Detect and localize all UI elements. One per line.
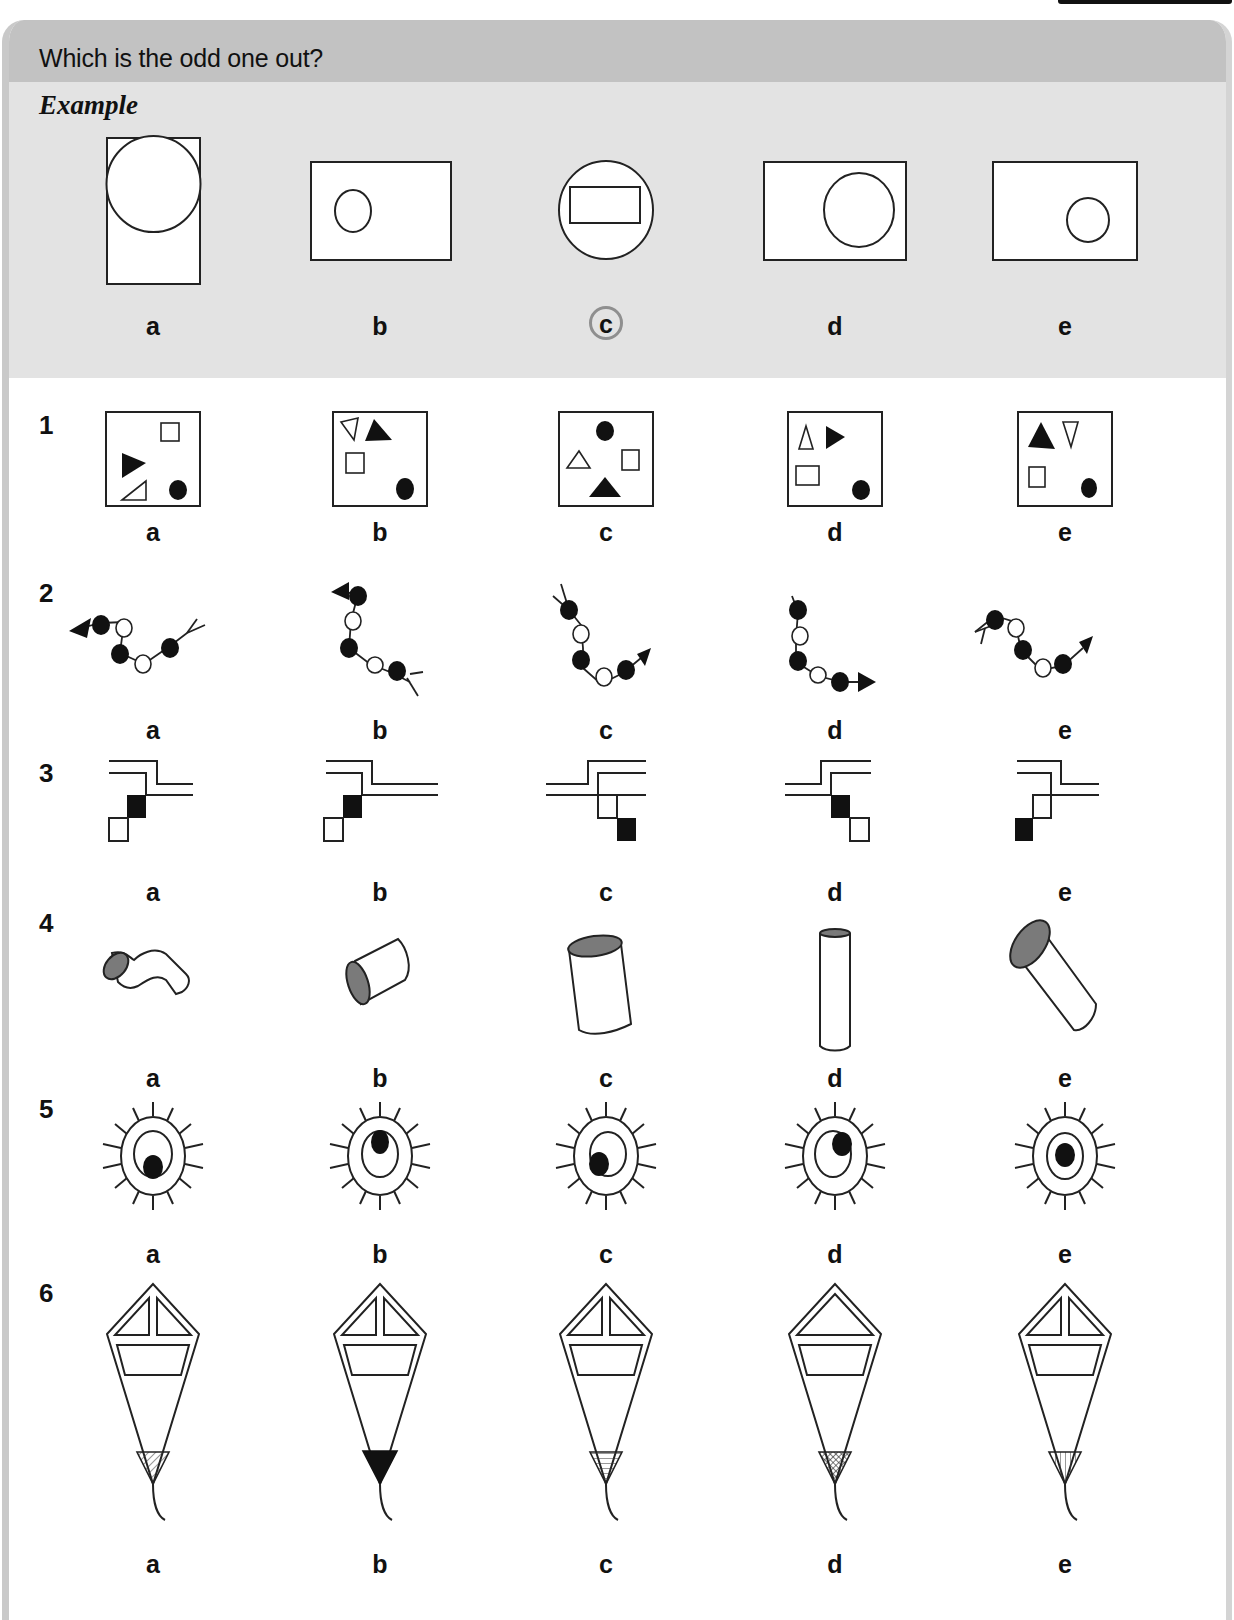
bead-chain-figure xyxy=(315,578,445,698)
top-edge-bar xyxy=(1058,0,1232,4)
option-letter: a xyxy=(53,1064,253,1093)
option-letter: b xyxy=(280,1064,480,1093)
q5-option-a[interactable]: a xyxy=(53,1094,253,1214)
option-letter: e xyxy=(965,312,1165,341)
option-letter: c xyxy=(506,518,706,547)
q3-option-d[interactable]: d xyxy=(735,758,935,858)
kite-figure xyxy=(330,1278,430,1528)
q2-option-d[interactable]: d xyxy=(735,578,935,698)
option-letter: c xyxy=(506,716,706,745)
option-letter: b xyxy=(280,716,480,745)
example-option-a[interactable]: a xyxy=(53,136,253,286)
spiked-eye-figure xyxy=(775,1094,895,1214)
q4-option-e[interactable]: e xyxy=(965,908,1165,1058)
q1-option-e[interactable]: e xyxy=(965,410,1165,508)
q6-option-c[interactable]: c xyxy=(506,1278,706,1528)
bead-chain-figure xyxy=(541,578,671,698)
q5-option-e[interactable]: e xyxy=(965,1094,1165,1214)
q5-option-b[interactable]: b xyxy=(280,1094,480,1214)
option-letter: e xyxy=(965,878,1165,907)
worksheet-panel: Which is the odd one out? Example a b c xyxy=(2,20,1232,1620)
option-letter: c xyxy=(506,878,706,907)
cylinder-icon xyxy=(315,908,445,1048)
bead-chain-figure xyxy=(67,578,227,688)
option-letter: a xyxy=(53,518,253,547)
question-number: 3 xyxy=(39,758,53,789)
example-option-b[interactable]: b xyxy=(280,136,480,286)
stepped-lines-squares-figure xyxy=(775,758,895,858)
option-letter: d xyxy=(735,1550,935,1579)
option-letter: e xyxy=(965,1064,1165,1093)
shapes-in-square-figure xyxy=(558,410,654,508)
q3-option-a[interactable]: a xyxy=(53,758,253,858)
option-letter: b xyxy=(280,1240,480,1269)
option-letter: e xyxy=(965,1240,1165,1269)
q6-option-e[interactable]: e xyxy=(965,1278,1165,1528)
example-option-c[interactable]: c xyxy=(506,136,706,286)
option-letter: b xyxy=(280,878,480,907)
q1-option-c[interactable]: c xyxy=(506,410,706,508)
q6-option-d[interactable]: d xyxy=(735,1278,935,1528)
shapes-in-square-figure xyxy=(332,410,428,508)
question-number: 4 xyxy=(39,908,53,939)
q3-option-e[interactable]: e xyxy=(965,758,1165,858)
kite-figure xyxy=(556,1278,656,1528)
stepped-lines-squares-figure xyxy=(310,758,450,858)
option-letter: d xyxy=(735,518,935,547)
q2-option-c[interactable]: c xyxy=(506,578,706,698)
bead-chain-figure xyxy=(770,578,900,698)
rectangle-circle-figure xyxy=(310,136,450,286)
option-letter: d xyxy=(735,716,935,745)
shapes-in-square-figure xyxy=(1017,410,1113,508)
page-title: Which is the odd one out? xyxy=(39,44,323,73)
kite-figure xyxy=(785,1278,885,1528)
option-letter: e xyxy=(965,716,1165,745)
stepped-lines-squares-figure xyxy=(546,758,666,858)
q1-option-a[interactable]: a xyxy=(53,410,253,508)
shapes-in-square-figure xyxy=(787,410,883,508)
option-letter: d xyxy=(735,1240,935,1269)
q4-option-b[interactable]: b xyxy=(280,908,480,1048)
bead-chain-figure xyxy=(955,578,1115,698)
option-letter: d xyxy=(735,312,935,341)
q6-option-a[interactable]: a xyxy=(53,1278,253,1528)
example-option-d[interactable]: d xyxy=(735,136,935,286)
q5-option-c[interactable]: c xyxy=(506,1094,706,1214)
option-letter: d xyxy=(735,1064,935,1093)
spiked-eye-figure xyxy=(1005,1094,1125,1214)
q5-option-d[interactable]: d xyxy=(735,1094,935,1214)
rectangle-circle-figure xyxy=(992,136,1138,286)
rectangle-circle-figure xyxy=(103,136,203,286)
option-letter: b xyxy=(280,1550,480,1579)
q4-option-d[interactable]: d xyxy=(735,908,935,1058)
option-letter: d xyxy=(735,878,935,907)
example-option-e[interactable]: e xyxy=(965,136,1165,286)
option-letter: a xyxy=(53,1240,253,1269)
option-letter: a xyxy=(53,1550,253,1579)
q1-option-b[interactable]: b xyxy=(280,410,480,508)
q2-option-b[interactable]: b xyxy=(280,578,480,698)
cylinder-icon xyxy=(541,908,671,1048)
q4-option-c[interactable]: c xyxy=(506,908,706,1048)
option-letter: a xyxy=(53,878,253,907)
option-letter: b xyxy=(280,518,480,547)
kite-figure xyxy=(103,1278,203,1528)
q2-option-a[interactable]: a xyxy=(53,578,253,688)
q3-option-b[interactable]: b xyxy=(280,758,480,858)
q6-option-b[interactable]: b xyxy=(280,1278,480,1528)
question-number: 1 xyxy=(39,410,53,441)
q4-option-a[interactable]: a xyxy=(53,908,253,1048)
kite-figure xyxy=(1015,1278,1115,1528)
q2-option-e[interactable]: e xyxy=(965,578,1165,698)
q3-option-c[interactable]: c xyxy=(506,758,706,858)
stepped-lines-squares-figure xyxy=(1005,758,1125,858)
question-number: 2 xyxy=(39,578,53,609)
q1-option-d[interactable]: d xyxy=(735,410,935,508)
option-letter: b xyxy=(280,312,480,341)
option-letter: a xyxy=(53,312,253,341)
question-number: 5 xyxy=(39,1094,53,1125)
example-section: Example a b c xyxy=(9,82,1226,378)
option-letter: c xyxy=(506,1550,706,1579)
spiked-eye-figure xyxy=(546,1094,666,1214)
bent-tube-icon xyxy=(88,908,218,1048)
